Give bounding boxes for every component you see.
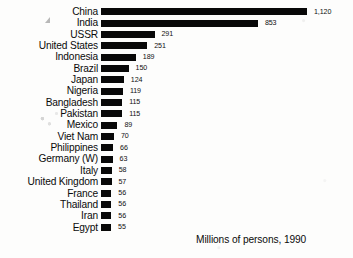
value-label: 189 bbox=[143, 52, 155, 63]
bar bbox=[101, 122, 117, 129]
value-label: 119 bbox=[130, 86, 141, 97]
value-label: 124 bbox=[131, 75, 143, 86]
value-label: 58 bbox=[119, 165, 127, 176]
bar-row: Thailand56 bbox=[0, 199, 353, 210]
bar bbox=[101, 76, 124, 83]
category-label: Viet Nam bbox=[57, 131, 98, 142]
bar-row: Japan124 bbox=[0, 74, 353, 85]
category-label: China bbox=[72, 6, 98, 17]
bar-row: Indonesia189 bbox=[0, 51, 353, 62]
bar bbox=[101, 110, 122, 117]
bar bbox=[101, 31, 155, 38]
value-label: 56 bbox=[118, 199, 126, 210]
value-label: 55 bbox=[118, 222, 126, 233]
bar bbox=[101, 190, 111, 197]
category-label: Italy bbox=[80, 165, 98, 176]
category-label: France bbox=[67, 188, 98, 199]
category-label: India bbox=[77, 17, 98, 28]
category-label: Egypt bbox=[73, 222, 98, 233]
bar-row: Bangladesh115 bbox=[0, 97, 353, 108]
category-label: Iran bbox=[81, 210, 98, 221]
population-bar-chart: China1,120India853USSR291United States25… bbox=[0, 0, 353, 258]
bar-row: China1,120 bbox=[0, 6, 353, 17]
bar-row: Pakistan115 bbox=[0, 108, 353, 119]
bar bbox=[101, 42, 147, 49]
category-label: USSR bbox=[70, 29, 98, 40]
bar-row: Italy58 bbox=[0, 165, 353, 176]
category-label: Indonesia bbox=[55, 51, 98, 62]
value-label: 89 bbox=[124, 120, 132, 131]
bar bbox=[101, 178, 112, 185]
category-label: Pakistan bbox=[60, 108, 98, 119]
value-label: 853 bbox=[265, 18, 277, 29]
bar bbox=[101, 133, 114, 140]
category-label: United Kingdom bbox=[28, 176, 98, 187]
chart-caption: Millions of persons, 1990 bbox=[196, 234, 306, 245]
category-label: Bangladesh bbox=[46, 97, 98, 108]
value-label: 291 bbox=[162, 29, 174, 40]
value-label: 57 bbox=[119, 177, 127, 188]
value-label: 115 bbox=[129, 109, 140, 120]
category-label: Nigeria bbox=[67, 85, 98, 96]
bar-row: United Kingdom57 bbox=[0, 176, 353, 187]
bar-row: Nigeria119 bbox=[0, 85, 353, 96]
bar bbox=[101, 144, 113, 151]
category-label: Brazil bbox=[73, 63, 98, 74]
bar bbox=[101, 8, 307, 15]
bar-row: Egypt55 bbox=[0, 222, 353, 233]
category-label: Thailand bbox=[60, 199, 98, 210]
bar bbox=[101, 99, 122, 106]
bar bbox=[101, 224, 111, 231]
value-label: 56 bbox=[118, 188, 126, 199]
category-label: Germany (W) bbox=[39, 153, 98, 164]
value-label: 150 bbox=[136, 63, 148, 74]
bar-row: Mexico89 bbox=[0, 119, 353, 130]
bar-row: Germany (W)63 bbox=[0, 153, 353, 164]
category-label: Philippines bbox=[50, 142, 98, 153]
bar bbox=[101, 156, 113, 163]
value-label: 63 bbox=[120, 154, 128, 165]
bar bbox=[101, 212, 111, 219]
category-label: United States bbox=[39, 40, 98, 51]
bar-row: France56 bbox=[0, 188, 353, 199]
category-label: Japan bbox=[71, 74, 98, 85]
bar bbox=[101, 88, 123, 95]
category-label: Mexico bbox=[67, 119, 98, 130]
value-label: 56 bbox=[118, 211, 126, 222]
bar-row: Brazil150 bbox=[0, 63, 353, 74]
bar bbox=[101, 20, 258, 27]
bar bbox=[101, 201, 111, 208]
value-label: 115 bbox=[129, 97, 140, 108]
value-label: 70 bbox=[121, 131, 129, 142]
bar bbox=[101, 65, 129, 72]
bar-row: Iran56 bbox=[0, 210, 353, 221]
bar-row: Philippines66 bbox=[0, 142, 353, 153]
bar-row: USSR291 bbox=[0, 29, 353, 40]
value-label: 251 bbox=[154, 41, 166, 52]
bar bbox=[101, 54, 136, 61]
value-label: 66 bbox=[120, 143, 128, 154]
bar-row: India853 bbox=[0, 17, 353, 28]
bar-row: United States251 bbox=[0, 40, 353, 51]
chart-rows: China1,120India853USSR291United States25… bbox=[0, 6, 353, 233]
bar-row: Viet Nam70 bbox=[0, 131, 353, 142]
bar bbox=[101, 167, 112, 174]
value-label: 1,120 bbox=[314, 7, 331, 18]
